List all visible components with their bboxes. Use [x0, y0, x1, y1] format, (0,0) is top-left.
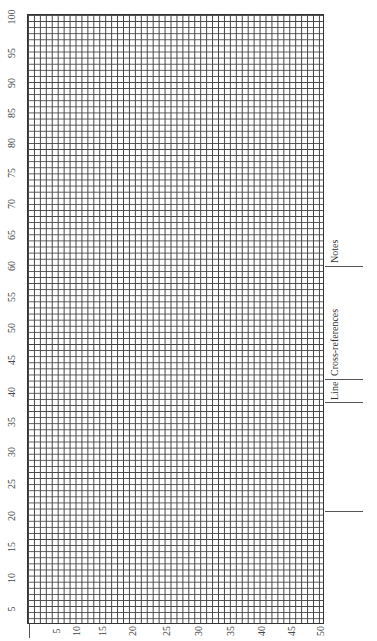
- y-label-70: 70: [7, 194, 17, 214]
- y-label-30: 30: [7, 442, 17, 462]
- y-label-95: 95: [7, 43, 17, 63]
- y-label-5: 5: [7, 599, 17, 619]
- y-label-55: 55: [7, 287, 17, 307]
- graph-paper-grid: [27, 14, 324, 624]
- bottom-divider: [325, 511, 363, 512]
- x-label-15: 15: [98, 621, 108, 641]
- y-label-100: 100: [7, 7, 17, 27]
- y-label-20: 20: [7, 506, 17, 526]
- y-label-10: 10: [7, 568, 17, 588]
- notes-divider: [325, 266, 363, 267]
- x-label-45: 45: [287, 621, 297, 641]
- y-label-65: 65: [7, 225, 17, 245]
- y-label-50: 50: [7, 318, 17, 338]
- x-label-30: 30: [194, 621, 204, 641]
- x-label-10: 10: [72, 621, 82, 641]
- x-label-5: 5: [52, 621, 62, 641]
- y-label-35: 35: [7, 412, 17, 432]
- line-label: Line: [330, 382, 340, 400]
- axis-stub-line: [29, 624, 30, 638]
- x-label-20: 20: [128, 621, 138, 641]
- x-label-50: 50: [316, 621, 326, 641]
- y-label-80: 80: [7, 133, 17, 153]
- x-label-40: 40: [257, 621, 267, 641]
- y-label-25: 25: [7, 474, 17, 494]
- y-label-45: 45: [7, 350, 17, 370]
- x-label-35: 35: [226, 621, 236, 641]
- cross-references-label: Cross-references: [330, 309, 340, 376]
- line-divider: [325, 402, 363, 403]
- y-label-85: 85: [7, 103, 17, 123]
- y-label-40: 40: [7, 382, 17, 402]
- cross-references-divider: [325, 379, 363, 380]
- y-label-75: 75: [7, 163, 17, 183]
- y-label-90: 90: [7, 73, 17, 93]
- notes-label: Notes: [330, 240, 340, 263]
- y-label-15: 15: [7, 537, 17, 557]
- x-label-25: 25: [162, 621, 172, 641]
- y-label-60: 60: [7, 256, 17, 276]
